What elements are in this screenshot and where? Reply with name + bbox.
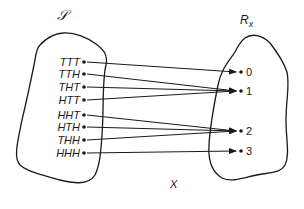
- value-dot: [239, 129, 243, 133]
- range-region: [209, 35, 288, 180]
- arrow-TTT-0: [87, 62, 236, 72]
- arrow-TTH-1: [87, 74, 236, 91]
- arrow-HHH-3: [87, 151, 236, 153]
- outcome-dot: [82, 125, 86, 129]
- value-dot: [239, 89, 243, 93]
- function-label: X: [169, 178, 178, 190]
- range-values: 0 1 2 3: [239, 66, 252, 157]
- value-label: 3: [246, 145, 252, 157]
- arrow-THT-1: [87, 87, 236, 91]
- outcome-dot: [82, 98, 86, 102]
- value-dot: [239, 70, 243, 74]
- outcome-label: HHH: [56, 147, 80, 159]
- outcome-label: HTH: [57, 121, 80, 133]
- value-dot: [239, 149, 243, 153]
- outcome-label: THT: [59, 81, 82, 93]
- outcome-dot: [82, 151, 86, 155]
- outcome-dot: [82, 85, 86, 89]
- outcome-dot: [82, 113, 86, 117]
- random-variable-mapping-diagram: 𝒮 Rx X TTT TTH THT HTT HHT HTH THH HHH 0…: [0, 0, 304, 209]
- outcome-label: HTT: [59, 94, 82, 106]
- outcome-label: HHT: [57, 109, 81, 121]
- sample-space-label: 𝒮: [57, 8, 72, 23]
- outcome-dot: [82, 138, 86, 142]
- outcome-list: TTT TTH THT HTT HHT HTH THH HHH: [56, 56, 86, 159]
- value-label: 0: [246, 66, 252, 78]
- range-label: Rx: [240, 13, 254, 29]
- arrow-THH-2: [87, 131, 236, 140]
- value-label: 2: [246, 125, 252, 137]
- outcome-label: TTH: [59, 68, 80, 80]
- outcome-label: THH: [57, 134, 80, 146]
- arrow-HTT-1: [87, 91, 236, 100]
- outcome-dot: [82, 72, 86, 76]
- outcome-label: TTT: [60, 56, 81, 68]
- outcome-dot: [82, 60, 86, 64]
- value-label: 1: [246, 85, 252, 97]
